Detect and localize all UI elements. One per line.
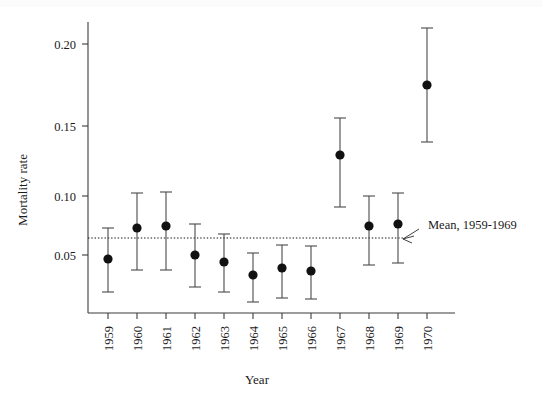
x-tick-label-1969: 1969 (392, 326, 406, 351)
x-tick-label-1959: 1959 (102, 326, 116, 351)
x-axis-tick-labels: 1959 1960 1961 1962 1963 1964 1965 1966 … (102, 325, 435, 351)
data-point-1970 (421, 28, 433, 142)
marker-1969 (393, 219, 402, 228)
data-point-1965 (276, 245, 288, 298)
data-point-1963 (218, 234, 230, 292)
y-axis-ticks (82, 44, 88, 255)
x-tick-label-1970: 1970 (421, 326, 435, 351)
y-tick-label-1: 0.15 (54, 120, 76, 134)
marker-1963 (219, 257, 228, 266)
data-point-1964 (247, 253, 259, 302)
marker-1965 (277, 263, 286, 272)
data-series-mortality-rate (102, 28, 433, 302)
scatter-plot-canvas: 0.20 0.15 0.10 0.05 1959 1960 1961 1962 … (0, 0, 542, 404)
marker-1960 (132, 223, 141, 232)
x-tick-label-1960: 1960 (131, 326, 145, 351)
arrow-head-icon (403, 236, 414, 243)
chart-figure: 0.20 0.15 0.10 0.05 1959 1960 1961 1962 … (0, 0, 542, 404)
y-axis-title: Mortality rate (15, 154, 30, 226)
axis-lines (88, 22, 455, 313)
y-tick-label-2: 0.10 (54, 190, 76, 204)
data-point-1962 (189, 224, 201, 287)
x-axis-title: Year (245, 372, 270, 387)
marker-1961 (161, 221, 170, 230)
mean-annotation-label: Mean, 1959-1969 (428, 218, 517, 232)
x-tick-label-1961: 1961 (160, 326, 174, 351)
marker-1970 (422, 80, 431, 89)
data-point-1966 (305, 246, 317, 299)
y-axis-tick-labels: 0.20 0.15 0.10 0.05 (54, 38, 76, 263)
x-tick-label-1967: 1967 (334, 326, 348, 351)
x-axis-ticks (108, 313, 427, 319)
y-tick-label-3: 0.05 (54, 249, 76, 263)
data-point-1969 (392, 193, 404, 263)
x-tick-label-1962: 1962 (189, 326, 203, 351)
data-point-1961 (160, 192, 172, 270)
marker-1959 (103, 254, 112, 263)
data-point-1968 (363, 196, 375, 265)
x-tick-label-1968: 1968 (363, 326, 377, 351)
marker-1966 (306, 266, 315, 275)
marker-1967 (335, 150, 344, 159)
marker-1968 (364, 221, 373, 230)
marker-1964 (248, 270, 257, 279)
data-point-1967 (334, 118, 346, 207)
x-tick-label-1963: 1963 (218, 326, 232, 351)
x-tick-label-1964: 1964 (247, 325, 261, 351)
x-tick-label-1965: 1965 (276, 326, 290, 351)
y-tick-label-0: 0.20 (54, 38, 76, 52)
x-tick-label-1966: 1966 (305, 326, 319, 351)
arrow-shaft (403, 229, 419, 239)
data-point-1960 (131, 193, 143, 270)
mean-annotation-arrow (403, 229, 419, 243)
marker-1962 (190, 250, 199, 259)
